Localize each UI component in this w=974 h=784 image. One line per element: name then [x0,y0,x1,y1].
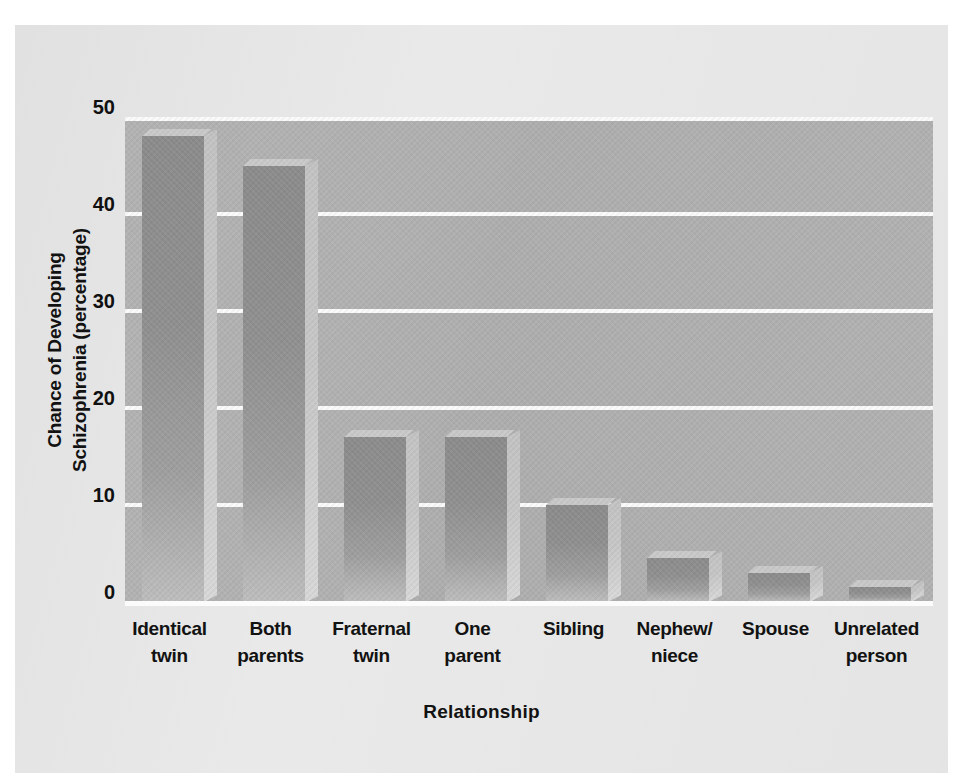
bar-one-parent [445,437,507,602]
y-tick-label-0: 0 [67,582,115,602]
bar-top-face [445,430,515,437]
x-tick-label-3: Oneparent [422,615,523,669]
bar-front-face [445,437,507,602]
bar-side-face [810,566,823,602]
chart-figure: Chance of Developing Schizophrenia (perc… [15,25,948,773]
x-tick-label-line2: niece [624,642,725,669]
x-tick-label-line2: person [826,642,927,669]
bar-side-face [305,159,318,602]
bar-top-face [748,566,818,573]
y-axis-title: Chance of Developing Schizophrenia (perc… [42,115,92,585]
bar-top-face [142,129,212,136]
x-tick-label-6: Spouse [725,615,826,642]
bar-both-parents [243,166,305,603]
x-tick-label-line1: Spouse [742,618,809,639]
x-tick-label-line1: Both [249,618,291,639]
y-tick-label-50: 50 [67,97,115,117]
plot-area: 01020304050 [125,117,933,602]
bar-front-face [546,505,608,602]
x-tick-label-2: Fraternaltwin [321,615,422,669]
bar-front-face [243,166,305,603]
x-tick-label-line2: parents [220,642,321,669]
bar-nephew-niece [647,558,709,602]
bar-side-face [709,551,722,602]
x-tick-label-line2: parent [422,642,523,669]
x-tick-label-7: Unrelatedperson [826,615,927,669]
gridline-50 [125,117,933,121]
bar-unrelated-person [849,587,911,602]
bar-front-face [849,587,911,602]
x-tick-label-line1: Unrelated [834,618,919,639]
y-tick-label-20: 20 [67,388,115,408]
y-axis-title-line1: Chance of Developing [44,252,65,448]
bar-front-face [748,573,810,602]
x-tick-label-line1: One [454,618,490,639]
x-tick-label-line1: Nephew/ [636,618,712,639]
bar-top-face [344,430,414,437]
bar-front-face [344,437,406,602]
bar-sibling [546,505,608,602]
x-tick-label-line2: twin [119,642,220,669]
bar-front-face [647,558,709,602]
bar-top-face [546,498,616,505]
y-tick-label-40: 40 [67,194,115,214]
y-tick-label-30: 30 [67,291,115,311]
bar-top-face [647,551,717,558]
x-tick-label-0: Identicaltwin [119,615,220,669]
bar-side-face [204,129,217,602]
x-tick-label-line1: Sibling [543,618,604,639]
axis-baseline [125,601,933,606]
x-tick-label-5: Nephew/niece [624,615,725,669]
bar-side-face [406,430,419,602]
bar-front-face [142,136,204,602]
x-axis-title: Relationship [15,701,948,723]
y-axis-title-line2: Schizophrenia (percentage) [69,228,90,472]
x-tick-label-line1: Identical [132,618,206,639]
bar-top-face [243,159,313,166]
bar-fraternal-twin [344,437,406,602]
bar-side-face [507,430,520,602]
bar-spouse [748,573,810,602]
bar-side-face [608,498,621,602]
x-tick-label-line1: Fraternal [332,618,411,639]
x-tick-label-1: Bothparents [220,615,321,669]
x-tick-label-line2: twin [321,642,422,669]
x-tick-label-4: Sibling [523,615,624,642]
bar-identical-twin [142,136,204,602]
bar-top-face [849,580,919,587]
y-tick-label-10: 10 [67,485,115,505]
